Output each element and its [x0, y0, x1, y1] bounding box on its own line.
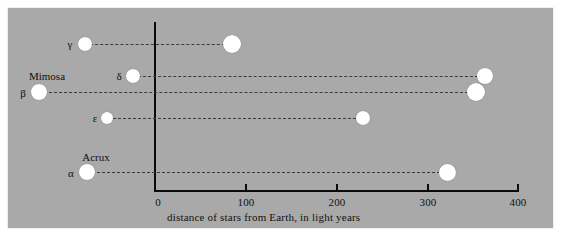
point-label-greek: α	[68, 167, 74, 179]
leader-line	[90, 44, 230, 45]
point-label-star-name: Mimosa	[29, 70, 65, 82]
point-label-greek: δ	[116, 70, 121, 82]
data-point[interactable]	[439, 164, 456, 181]
star-distance-figure: 0 100 200 300 400 distance of stars from…	[0, 0, 561, 243]
marker-origin[interactable]	[101, 112, 113, 124]
leader-line	[113, 118, 361, 119]
data-point[interactable]	[477, 68, 493, 84]
data-point[interactable]	[356, 111, 370, 125]
point-label-greek: γ	[68, 38, 73, 50]
point-label-greek: ε	[93, 112, 98, 124]
marker-origin[interactable]	[31, 84, 47, 100]
data-point[interactable]	[223, 35, 241, 53]
marker-origin[interactable]	[126, 69, 140, 83]
marker-origin[interactable]	[79, 164, 95, 180]
data-point[interactable]	[467, 83, 485, 101]
leader-line	[138, 76, 483, 77]
leader-line	[92, 172, 445, 173]
leader-line	[44, 92, 473, 93]
point-label-greek: β	[20, 87, 26, 99]
marker-origin[interactable]	[78, 37, 92, 51]
point-label-star-name: Acrux	[82, 151, 110, 163]
